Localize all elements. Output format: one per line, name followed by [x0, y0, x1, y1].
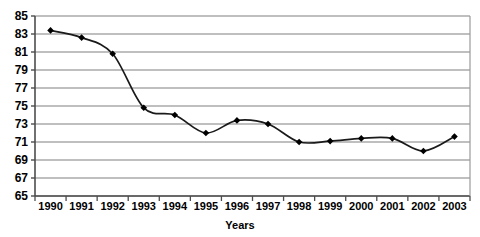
x-axis-tick-label: 1993: [132, 201, 156, 212]
x-axis-tick-label: 1999: [318, 201, 342, 212]
x-axis-tick-label: 1990: [38, 201, 62, 212]
data-point-marker: [172, 112, 179, 119]
x-axis-tick-label: 1998: [287, 201, 311, 212]
data-point-marker: [451, 133, 458, 140]
x-axis-tick-label: 1996: [225, 201, 249, 212]
x-axis-tick-label: 1997: [256, 201, 280, 212]
data-point-marker: [420, 148, 427, 155]
data-point-markers: [47, 27, 458, 154]
x-axis-title: Years: [0, 220, 480, 231]
x-axis-tick-label: 2000: [349, 201, 373, 212]
data-line-series-1: [51, 30, 455, 151]
x-axis-tick-label: 2001: [380, 201, 404, 212]
x-axis-tick-label: 2003: [442, 201, 466, 212]
x-axis-tick-label: 1995: [194, 201, 218, 212]
x-axis-tick-label: 1992: [100, 201, 124, 212]
data-point-marker: [234, 117, 241, 124]
data-point-marker: [265, 121, 272, 128]
x-axis-tick-label: 1994: [163, 201, 187, 212]
line-chart: 6567697173757779818385 19901991199219931…: [0, 0, 480, 237]
data-point-marker: [47, 27, 54, 34]
data-point-marker: [203, 130, 210, 137]
data-point-marker: [358, 135, 365, 142]
data-point-marker: [78, 34, 85, 41]
x-axis-tick-label: 1991: [69, 201, 93, 212]
data-point-marker: [296, 139, 303, 146]
x-axis-tick-label: 2002: [411, 201, 435, 212]
data-point-marker: [389, 135, 396, 142]
x-axis-tick-labels: 1990199119921993199419951996199719981999…: [0, 201, 480, 219]
data-point-marker: [327, 138, 334, 145]
